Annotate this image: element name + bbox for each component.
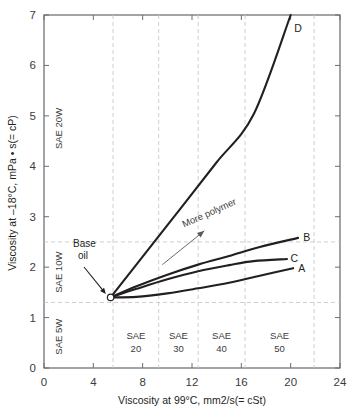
curve-label-A: A <box>298 262 305 274</box>
y-tick-labels: 01234567 <box>30 9 37 374</box>
x-tick-label-2: 8 <box>139 376 145 388</box>
y-tick-label-2: 2 <box>30 261 36 273</box>
x-axis-title: Viscosity at 99°C, mm2/s(= cSt) <box>118 394 266 406</box>
band-label-sae-20-line2: 20 <box>131 343 142 354</box>
chart-canvas: 04812162024 01234567 Viscosity at 99°C, … <box>0 0 355 414</box>
band-label-sae-40-line2: 40 <box>216 343 227 354</box>
sae-w-grade-bands: SAE 20WSAE 10WSAE 5W <box>53 108 64 355</box>
band-label-sae-50-line1: SAE <box>270 330 289 341</box>
band-label-sae-30-line2: 30 <box>173 343 184 354</box>
base-oil-label-line1: Base <box>73 238 96 249</box>
y-tick-label-5: 5 <box>30 110 36 122</box>
tick-marks <box>44 15 340 368</box>
band-label-sae-30-line1: SAE <box>169 330 188 341</box>
band-label-sae-50-line2: 50 <box>274 343 285 354</box>
y-tick-label-3: 3 <box>30 211 36 223</box>
base-oil-label-line2: oil <box>78 250 88 261</box>
base-oil-arrow <box>84 267 105 292</box>
data-curves <box>111 15 298 297</box>
curve-A <box>111 268 294 297</box>
curve-label-C: C <box>291 252 299 264</box>
y-tick-label-4: 4 <box>30 160 37 172</box>
curve-label-B: B <box>303 231 310 243</box>
y-axis-title: Viscosity at –18°C, mPa • s(= cP) <box>6 115 18 271</box>
x-tick-label-4: 16 <box>235 376 248 388</box>
band-label-sae-5w: SAE 5W <box>53 319 64 355</box>
band-label-sae-10w: SAE 10W <box>53 252 64 293</box>
y-tick-label-6: 6 <box>30 59 36 71</box>
plot-area-border <box>44 15 340 368</box>
more-polymer-annotation: More polymer <box>162 196 237 265</box>
curve-D <box>111 15 291 297</box>
band-label-sae-20w: SAE 20W <box>53 108 64 149</box>
x-tick-label-0: 0 <box>41 376 47 388</box>
curve-labels: ABCD <box>291 22 311 275</box>
y-tick-label-7: 7 <box>30 9 36 21</box>
x-tick-label-3: 12 <box>186 376 199 388</box>
more-polymer-label: More polymer <box>180 196 238 230</box>
base-oil-annotation: Base oil <box>73 238 114 301</box>
sae-grade-bands: SAE20SAE30SAE40SAE50 <box>126 330 289 354</box>
viscosity-chart: 04812162024 01234567 Viscosity at 99°C, … <box>0 0 355 414</box>
grid-lines <box>44 15 340 368</box>
curve-label-D: D <box>294 22 302 34</box>
band-label-sae-40-line1: SAE <box>212 330 231 341</box>
x-tick-label-1: 4 <box>90 376 97 388</box>
base-oil-point-marker <box>107 294 113 300</box>
band-label-sae-20-line1: SAE <box>126 330 145 341</box>
more-polymer-arrow-head <box>197 231 204 238</box>
x-tick-labels: 04812162024 <box>41 376 347 388</box>
y-tick-label-0: 0 <box>30 362 36 374</box>
plot-frame <box>44 15 340 368</box>
x-tick-label-6: 24 <box>334 376 347 388</box>
y-tick-label-1: 1 <box>30 312 36 324</box>
x-tick-label-5: 20 <box>284 376 297 388</box>
